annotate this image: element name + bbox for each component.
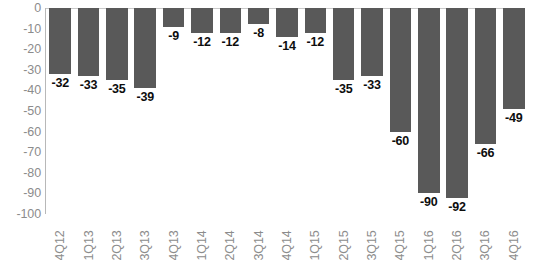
bar-4Q12[interactable]: -32 [49, 8, 71, 214]
bar-rect [361, 8, 383, 76]
x-axis-category-1Q16: 1Q16 [418, 216, 440, 260]
x-axis-category-3Q13: 3Q13 [134, 216, 156, 260]
bar-3Q13[interactable]: -39 [134, 8, 156, 214]
bar-rect [475, 8, 497, 144]
y-axis-tick-label: -100 [0, 208, 41, 221]
bar-rect [220, 8, 242, 33]
bar-rect [49, 8, 71, 74]
bar-value-label: -35 [108, 83, 125, 96]
y-axis-tick-label: -90 [0, 187, 41, 200]
x-axis-category-4Q15: 4Q15 [390, 216, 412, 260]
bar-value-label: -90 [420, 196, 437, 209]
x-axis-category-label: 1Q14 [196, 230, 209, 260]
bar-rect [163, 8, 185, 27]
bar-value-label: -92 [448, 201, 465, 214]
bar-rect [503, 8, 525, 109]
bar-4Q16[interactable]: -49 [503, 8, 525, 214]
bar-rect [191, 8, 213, 33]
y-axis-tick-label: -30 [0, 64, 41, 77]
x-axis-category-label: 2Q15 [337, 230, 350, 260]
bar-value-label: -14 [278, 40, 295, 53]
x-axis-category-label: 1Q16 [423, 230, 436, 260]
x-axis-category-label: 1Q15 [309, 230, 322, 260]
bar-value-label: -8 [253, 27, 264, 40]
bar-2Q16[interactable]: -92 [446, 8, 468, 214]
x-axis-category-4Q12: 4Q12 [49, 216, 71, 260]
y-axis-tick-label: 0 [0, 2, 41, 15]
plot-area: -32-33-35-39-9-12-12-8-14-12-35-33-60-90… [46, 8, 528, 214]
bar-1Q14[interactable]: -12 [191, 8, 213, 214]
x-axis-category-labels: 4Q121Q132Q133Q134Q131Q142Q143Q144Q141Q15… [46, 216, 528, 260]
bar-value-label: -9 [168, 30, 179, 43]
bar-4Q14[interactable]: -14 [276, 8, 298, 214]
x-axis-category-label: 3Q16 [479, 230, 492, 260]
bar-2Q13[interactable]: -35 [106, 8, 128, 214]
bar-value-label: -33 [363, 79, 380, 92]
bar-chart: 0-10-20-30-40-50-60-70-80-90-100 -32-33-… [0, 0, 534, 260]
bar-value-label: -33 [80, 79, 97, 92]
bar-4Q15[interactable]: -60 [390, 8, 412, 214]
x-axis-category-label: 2Q13 [111, 230, 124, 260]
x-axis-category-label: 4Q14 [281, 230, 294, 260]
y-axis-tick-label: -40 [0, 84, 41, 97]
bar-value-label: -49 [505, 112, 522, 125]
bar-value-label: -39 [136, 91, 153, 104]
y-axis-tick-label: -50 [0, 105, 41, 118]
y-axis-tick-label: -10 [0, 22, 41, 35]
x-axis-category-4Q13: 4Q13 [163, 216, 185, 260]
bar-3Q15[interactable]: -33 [361, 8, 383, 214]
x-axis-category-label: 4Q13 [167, 230, 180, 260]
x-axis-category-2Q14: 2Q14 [220, 216, 242, 260]
bar-1Q13[interactable]: -33 [78, 8, 100, 214]
bar-rect [134, 8, 156, 88]
x-axis-category-label: 3Q15 [366, 230, 379, 260]
x-axis-category-label: 4Q15 [394, 230, 407, 260]
bar-3Q14[interactable]: -8 [248, 8, 270, 214]
y-axis-tick-label: -70 [0, 146, 41, 159]
y-axis-tick-label: -20 [0, 43, 41, 56]
bar-2Q15[interactable]: -35 [333, 8, 355, 214]
bar-rect [418, 8, 440, 193]
x-axis-category-4Q16: 4Q16 [503, 216, 525, 260]
bar-value-label: -12 [193, 36, 210, 49]
bar-rect [276, 8, 298, 37]
x-axis-category-2Q15: 2Q15 [333, 216, 355, 260]
x-axis-category-1Q15: 1Q15 [305, 216, 327, 260]
x-axis-category-3Q15: 3Q15 [361, 216, 383, 260]
bar-rect [78, 8, 100, 76]
bar-rect [248, 8, 270, 24]
x-axis-category-1Q14: 1Q14 [191, 216, 213, 260]
x-axis-category-label: 1Q13 [82, 230, 95, 260]
x-axis-category-2Q13: 2Q13 [106, 216, 128, 260]
x-axis-category-3Q16: 3Q16 [475, 216, 497, 260]
x-axis-category-4Q14: 4Q14 [276, 216, 298, 260]
bar-value-label: -32 [51, 77, 68, 90]
x-axis-category-label: 4Q16 [508, 230, 521, 260]
bar-3Q16[interactable]: -66 [475, 8, 497, 214]
bar-rect [305, 8, 327, 33]
bar-rect [106, 8, 128, 80]
bar-value-label: -12 [307, 36, 324, 49]
y-axis-tick-labels: 0-10-20-30-40-50-60-70-80-90-100 [0, 0, 41, 220]
bar-rect [390, 8, 412, 132]
bar-rect [446, 8, 468, 198]
x-axis-category-label: 2Q14 [224, 230, 237, 260]
bar-1Q16[interactable]: -90 [418, 8, 440, 214]
x-axis-category-2Q16: 2Q16 [446, 216, 468, 260]
x-axis-category-label: 3Q13 [139, 230, 152, 260]
bar-value-label: -60 [392, 135, 409, 148]
y-axis-tick-label: -60 [0, 125, 41, 138]
y-axis-tick-label: -80 [0, 167, 41, 180]
x-axis-category-label: 3Q14 [252, 230, 265, 260]
x-axis-category-label: 4Q12 [54, 230, 67, 260]
x-axis-category-3Q14: 3Q14 [248, 216, 270, 260]
bar-1Q15[interactable]: -12 [305, 8, 327, 214]
bar-rect [333, 8, 355, 80]
x-axis-category-1Q13: 1Q13 [78, 216, 100, 260]
bar-value-label: -66 [477, 147, 494, 160]
bar-value-label: -35 [335, 83, 352, 96]
x-axis-category-label: 2Q16 [451, 230, 464, 260]
bar-value-label: -12 [222, 36, 239, 49]
bar-2Q14[interactable]: -12 [220, 8, 242, 214]
bar-4Q13[interactable]: -9 [163, 8, 185, 214]
